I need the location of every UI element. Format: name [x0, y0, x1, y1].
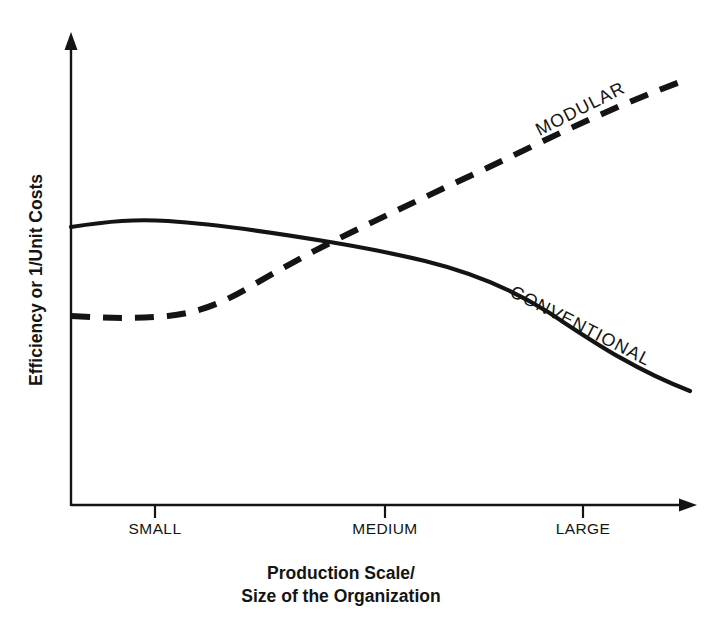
series-conventional-line	[71, 220, 690, 391]
chart-figure: MODULAR CONVENTIONAL SMALL MEDIUM LARGE …	[0, 0, 726, 644]
y-axis-arrow-icon	[65, 32, 78, 50]
x-tick-labels: SMALL MEDIUM LARGE	[129, 520, 611, 537]
x-tick-label-small: SMALL	[129, 520, 182, 537]
x-tick-label-medium: MEDIUM	[352, 520, 417, 537]
series-modular-line	[71, 82, 680, 318]
y-axis-title: Efficiency or 1/Unit Costs	[26, 174, 46, 386]
series-label-conventional: CONVENTIONAL	[507, 282, 654, 370]
x-axis-arrow-icon	[679, 499, 697, 512]
x-tick-label-large: LARGE	[556, 520, 611, 537]
x-axis-title-line2: Size of the Organization	[241, 586, 440, 606]
chart-canvas: MODULAR CONVENTIONAL SMALL MEDIUM LARGE …	[0, 0, 726, 644]
x-axis-title-line1: Production Scale/	[267, 563, 415, 583]
axis-titles: Production Scale/ Size of the Organizati…	[26, 174, 441, 606]
